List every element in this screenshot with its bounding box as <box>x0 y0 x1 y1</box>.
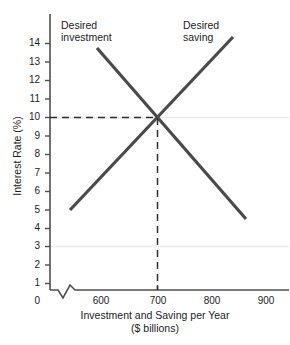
curve-label-desired-investment: Desired investment <box>61 19 112 43</box>
curve-label-saving-line2: saving <box>183 31 219 43</box>
curve-label-investment-line2: investment <box>61 31 112 43</box>
chart-plot-area <box>0 0 290 345</box>
x-axis-title-line2: ($ billions) <box>30 322 280 335</box>
y-tick-label-13: 13 <box>18 57 40 67</box>
y-tick-label-2: 2 <box>18 260 40 270</box>
y-tick-label-3: 3 <box>18 241 40 251</box>
y-tick-label-12: 12 <box>18 75 40 85</box>
x-tick-label-900: 900 <box>246 296 286 306</box>
y-axis-title: Interest Rate (%) <box>11 101 23 211</box>
y-tick-label-1: 1 <box>18 278 40 288</box>
curve-label-investment-line1: Desired <box>61 19 112 31</box>
curve-label-desired-saving: Desired saving <box>183 19 219 43</box>
y-tick-label-0: 0 <box>18 296 40 306</box>
x-tick-label-600: 600 <box>81 296 121 306</box>
x-tick-label-800: 800 <box>192 296 232 306</box>
chart-figure: 14 13 12 11 10 9 8 7 6 5 4 3 2 1 0 600 7… <box>0 0 290 345</box>
x-axis-title-line1: Investment and Saving per Year <box>30 309 280 322</box>
y-tick-label-14: 14 <box>18 38 40 48</box>
curve-desired-investment <box>97 48 246 219</box>
x-tick-label-700: 700 <box>138 296 178 306</box>
x-axis-title: Investment and Saving per Year ($ billio… <box>30 309 280 335</box>
curve-label-saving-line1: Desired <box>183 19 219 31</box>
curve-desired-saving <box>70 37 233 210</box>
y-tick-label-4: 4 <box>18 223 40 233</box>
